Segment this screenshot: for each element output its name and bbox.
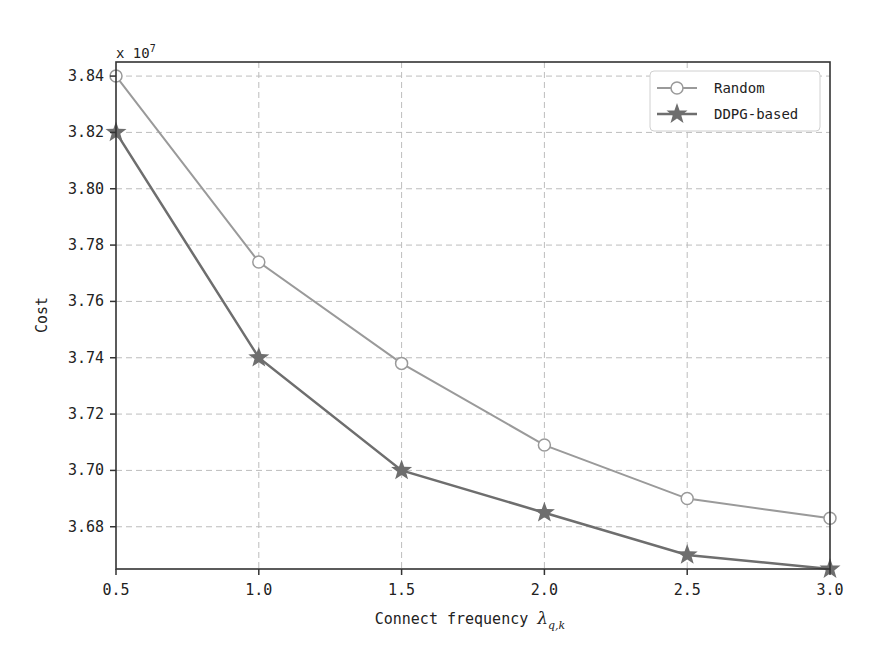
y-axis-ticks: 3.843.823.803.783.763.743.723.703.68 — [68, 67, 116, 536]
data-point — [677, 544, 698, 564]
x-axis-ticks: 0.51.01.52.02.53.0 — [102, 569, 843, 599]
x-axis-label: Connect frequency λq,k — [375, 608, 566, 632]
y-tick-label: 3.84 — [68, 67, 104, 85]
data-point — [534, 502, 555, 522]
circle-marker-icon — [671, 82, 683, 94]
x-tick-label: 2.0 — [531, 581, 558, 599]
y-axis-label: Cost — [33, 297, 51, 333]
legend-label-random: Random — [714, 80, 765, 96]
y-multiplier: x 107 — [116, 43, 156, 61]
y-tick-label: 3.78 — [68, 236, 104, 254]
data-point — [396, 357, 408, 369]
data-point — [538, 439, 550, 451]
y-tick-label: 3.68 — [68, 518, 104, 536]
x-tick-label: 2.5 — [674, 581, 701, 599]
y-tick-label: 3.70 — [68, 461, 104, 479]
y-tick-label: 3.74 — [68, 349, 104, 367]
x-tick-label: 3.0 — [816, 581, 843, 599]
series-ddpg-based — [106, 121, 841, 578]
x-tick-label: 0.5 — [102, 581, 129, 599]
data-point — [681, 493, 693, 505]
series-layer — [106, 70, 841, 578]
grid — [116, 62, 830, 569]
chart: 3.843.823.803.783.763.743.723.703.68 0.5… — [0, 0, 881, 662]
series-random — [110, 70, 836, 524]
legend: Random DDPG-based — [650, 71, 820, 131]
x-tick-label: 1.5 — [388, 581, 415, 599]
y-tick-label: 3.72 — [68, 405, 104, 423]
plot-frame — [116, 62, 830, 569]
x-tick-label: 1.0 — [245, 581, 272, 599]
data-point — [253, 256, 265, 268]
y-tick-label: 3.82 — [68, 123, 104, 141]
legend-label-ddpg: DDPG-based — [714, 106, 798, 122]
y-tick-label: 3.80 — [68, 180, 104, 198]
y-tick-label: 3.76 — [68, 292, 104, 310]
